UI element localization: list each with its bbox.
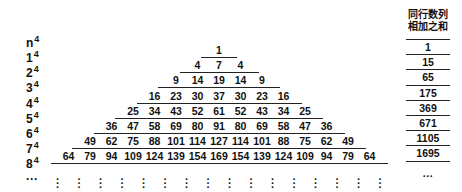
pyramid-cell: 124 [144, 150, 166, 162]
pyramid-cell: 69 [251, 120, 273, 132]
pyramid-row-3: 91419149 [0, 74, 462, 87]
pyramid-cell: 14 [187, 74, 209, 86]
pyramid-cell: 79 [79, 150, 101, 162]
pyramid-cell: 16 [144, 90, 166, 102]
pyramid-cell: 19 [208, 74, 230, 86]
row-divider [201, 57, 237, 58]
sum-divider [406, 100, 450, 101]
pyramid-cell: 58 [273, 120, 295, 132]
row-divider [51, 163, 388, 164]
vertical-ellipsis: ··· [289, 177, 299, 189]
sum-divider [406, 69, 450, 70]
pyramid-cell: 94 [316, 150, 338, 162]
pyramid-cell: 101 [165, 135, 187, 147]
pyramid-cell: 9 [165, 74, 187, 86]
pyramid-cell: 7 [208, 59, 230, 71]
pyramid-cell: 69 [165, 120, 187, 132]
pyramid-cell: 23 [165, 90, 187, 102]
sum-divider [406, 54, 450, 55]
row-divider [94, 133, 345, 134]
pyramid-cell: 109 [294, 150, 316, 162]
pyramid-cell: 88 [273, 135, 295, 147]
vertical-ellipsis: ··· [246, 177, 256, 189]
row-sum: 1695 [404, 147, 452, 159]
pyramid-cell: 58 [144, 120, 166, 132]
vertical-ellipsis: ··· [74, 177, 84, 189]
sum-divider [406, 145, 450, 146]
pyramid-cell: 14 [230, 74, 252, 86]
pyramid-cell: 75 [122, 135, 144, 147]
pyramid-row-6: 3647586980918069584736 [0, 120, 462, 133]
pyramid-cell: 1 [208, 44, 230, 56]
pyramid-cell: 9 [251, 74, 273, 86]
row-sum: 671 [404, 117, 452, 129]
header-line2: 相加之和 [404, 21, 452, 33]
vertical-ellipsis: ··· [375, 177, 385, 189]
pyramid-cell: 64 [359, 150, 381, 162]
pyramid-cell: 4 [187, 59, 209, 71]
pyramid-cell: 49 [337, 135, 359, 147]
vertical-ellipsis: ··· [117, 177, 127, 189]
pyramid-cell: 25 [122, 105, 144, 117]
vertical-ellipsis: ··· [139, 177, 149, 189]
pyramid-cell: 64 [58, 150, 80, 162]
pyramid-row-1: 1 [0, 44, 462, 57]
pyramid-cell: 169 [208, 150, 230, 162]
row-sum: 1105 [404, 132, 452, 144]
pyramid-cell: 47 [122, 120, 144, 132]
pyramid-cell: 139 [251, 150, 273, 162]
row-sum: 369 [404, 102, 452, 114]
vertical-ellipsis: ··· [53, 177, 63, 189]
pyramid-cell: 47 [294, 120, 316, 132]
sum-divider [406, 130, 450, 131]
pyramid-cell: 154 [187, 150, 209, 162]
column-header: 同行数列 相加之和 [404, 9, 452, 33]
row-divider [158, 87, 280, 88]
sum-divider [406, 39, 450, 40]
vertical-ellipsis: ··· [225, 177, 235, 189]
pyramid-row-7: 4962758810111412711410188756249 [0, 135, 462, 148]
row-sum: 175 [404, 87, 452, 99]
vertical-ellipsis: ··· [311, 177, 321, 189]
pyramid-cell: 91 [208, 120, 230, 132]
vertical-ellipsis: ··· [160, 177, 170, 189]
vertical-ellipsis: ··· [182, 177, 192, 189]
row-sum: 65 [404, 71, 452, 83]
pyramid-cell: 34 [273, 105, 295, 117]
pyramid-cell: 114 [187, 135, 209, 147]
pyramid-cell: 94 [101, 150, 123, 162]
pyramid-cell: 88 [144, 135, 166, 147]
pyramid-cell: 52 [187, 105, 209, 117]
pyramid-cell: 139 [165, 150, 187, 162]
pyramid-row-2: 474 [0, 59, 462, 72]
pyramid-cell: 36 [316, 120, 338, 132]
sum-divider [406, 161, 450, 162]
pyramid-row-5: 253443526152433425 [0, 105, 462, 118]
pyramid-cell: 37 [208, 90, 230, 102]
row-divider [115, 118, 323, 119]
pyramid-cell: 127 [208, 135, 230, 147]
header-line1: 同行数列 [404, 9, 452, 21]
pyramid-cell: 124 [273, 150, 295, 162]
vertical-ellipsis: ··· [354, 177, 364, 189]
pyramid-cell: 43 [251, 105, 273, 117]
pyramid-cell: 79 [337, 150, 359, 162]
pyramid-cell: 49 [79, 135, 101, 147]
pyramid-cell: 52 [230, 105, 252, 117]
pyramid-cell: 23 [251, 90, 273, 102]
row-sum: 15 [404, 56, 452, 68]
pyramid-cell: 80 [187, 120, 209, 132]
pyramid-cell: 34 [144, 105, 166, 117]
pyramid-cell: 101 [251, 135, 273, 147]
pyramid-cell: 61 [208, 105, 230, 117]
vertical-ellipsis: ··· [96, 177, 106, 189]
pyramid-cell: 25 [294, 105, 316, 117]
pyramid-cell: 62 [316, 135, 338, 147]
row-divider [137, 103, 302, 104]
pyramid-cell: 114 [230, 135, 252, 147]
pyramid-cell: 80 [230, 120, 252, 132]
row-divider [180, 72, 259, 73]
vertical-ellipsis: ··· [332, 177, 342, 189]
row-divider [72, 148, 366, 149]
pyramid-cell: 4 [230, 59, 252, 71]
